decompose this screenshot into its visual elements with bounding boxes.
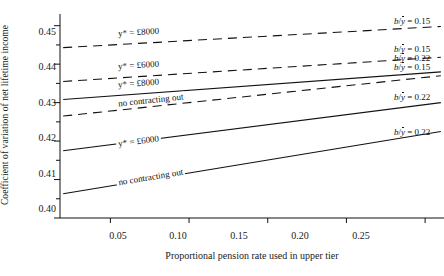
series-value-5: 0.22 xyxy=(415,127,431,137)
x-tick-label: 0.10 xyxy=(158,231,198,241)
series-label-3: b/y = 0.15 xyxy=(394,62,430,72)
series-value-0: 0.15 xyxy=(415,16,431,26)
series-value-3: 0.15 xyxy=(415,62,431,72)
y-tick-label: 0.43 xyxy=(22,98,56,108)
chart-figure: Coefficient of variation of net lifetime… xyxy=(0,0,444,276)
y-tick-label: 0.40 xyxy=(22,204,56,214)
series-label-5: b/y = 0.22 xyxy=(394,127,430,137)
x-tick-label: 0.20 xyxy=(280,231,320,241)
series-label-4: b/y = 0.22 xyxy=(394,92,430,102)
y-tick-label: 0.42 xyxy=(22,133,56,143)
x-axis-title: Proportional pension rate used in upper … xyxy=(60,250,444,261)
y-tick-label: 0.44 xyxy=(22,62,56,72)
y-tick-label: 0.41 xyxy=(22,169,56,179)
x-tick-label: 0.15 xyxy=(219,231,259,241)
x-tick-label: 0.25 xyxy=(341,231,381,241)
series-value-4: 0.22 xyxy=(415,92,431,102)
y-tick-label: 0.45 xyxy=(22,27,56,37)
x-tick-label: 0.05 xyxy=(98,231,138,241)
series-label-0: b/y = 0.15 xyxy=(394,16,430,26)
